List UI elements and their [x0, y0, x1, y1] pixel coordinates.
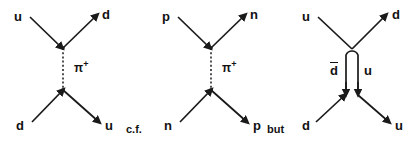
label-d2-propagator-charge: +: [231, 59, 236, 69]
label-d2-top-left: p: [162, 10, 170, 23]
label-d1-bottom-left: d: [16, 119, 24, 132]
label-d3-bottom-left: d: [302, 119, 310, 132]
label-d1-propagator-symbol: π: [74, 61, 83, 75]
line-top-right-outgoing: [211, 15, 245, 48]
diagram-nucleon-level-pion-exchange: [178, 15, 247, 122]
line-bottom-right-outgoing: [358, 95, 389, 122]
label-d1-propagator: π+: [74, 60, 88, 74]
label-d3-bottom-right: u: [395, 119, 403, 132]
label-d3-internal-left-bar: d: [330, 64, 338, 77]
label-d2-bottom-right: p: [253, 119, 261, 132]
diagram-quark-level-pion-exchange: [30, 15, 99, 122]
line-top-left-incoming: [178, 17, 210, 48]
label-d2-top-right: n: [250, 8, 258, 21]
line-bottom-left-incoming: [316, 95, 345, 122]
label-d2-bottom-left: n: [164, 119, 172, 132]
line-bottom-right-outgoing: [211, 90, 247, 122]
caption-but: but: [267, 124, 284, 135]
label-d2-propagator-symbol: π: [222, 61, 231, 75]
line-bottom-left-incoming: [32, 90, 63, 122]
label-d1-top-left: u: [14, 10, 22, 23]
line-bottom-right-outgoing: [63, 90, 99, 122]
diagram-quark-line-loop-exchange: [316, 15, 389, 122]
caption-cf: c.f.: [126, 124, 142, 135]
line-top-left-incoming: [30, 17, 62, 48]
loop-quark-pair-line: [346, 51, 358, 95]
label-d3-top-left: u: [302, 10, 310, 23]
vertex-lower: [209, 88, 213, 92]
label-d1-top-right: d: [102, 8, 110, 21]
line-top-right-outgoing: [63, 15, 97, 48]
label-d3-top-right: d: [392, 8, 400, 21]
vertex-upper: [61, 46, 65, 50]
label-d3-internal-right: u: [364, 64, 372, 77]
label-d1-bottom-right: u: [105, 119, 113, 132]
vertex-upper: [209, 46, 213, 50]
line-bottom-left-incoming: [180, 90, 211, 122]
vertex-lower: [61, 88, 65, 92]
line-top-left-incoming: [318, 17, 352, 49]
label-d2-propagator: π+: [222, 60, 236, 74]
feynman-diagram-figure: [0, 0, 414, 150]
label-d3-internal-left: d: [330, 64, 338, 77]
line-top-right-outgoing: [352, 15, 386, 49]
label-d1-propagator-charge: +: [83, 59, 88, 69]
